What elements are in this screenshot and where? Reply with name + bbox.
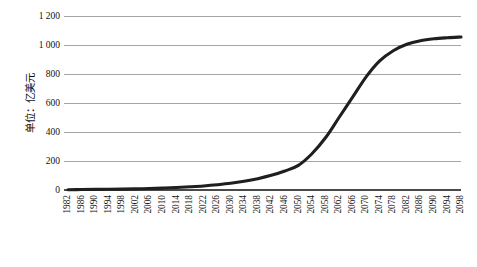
x-axis-tick-label: 2062 [333,195,343,214]
y-axis-tick-label: 1 000 [39,40,61,50]
x-axis-tick-label: 1990 [89,195,99,214]
x-axis-tick-label: 2074 [374,195,384,214]
x-axis-tick-label: 2078 [387,195,397,214]
x-axis-tick-label: 2010 [157,195,167,214]
line-chart: 02004006008001 0001 200 1982198619901994… [0,0,477,267]
x-axis-tick-label: 1986 [76,195,86,214]
y-axis-tick-label: 0 [55,185,60,195]
x-axis-tick-label: 2022 [198,195,208,214]
x-axis-tick-label: 2030 [225,195,235,214]
x-axis-tick-label: 2070 [360,195,370,214]
x-axis-tick-label: 2034 [238,195,248,214]
x-axis-tick-label: 2026 [211,195,221,214]
series-line [68,37,461,190]
x-axis-tick-label: 2098 [455,195,465,214]
x-axis-tick-label: 2086 [414,195,424,214]
x-axis-tick-label: 2066 [347,195,357,214]
x-axis-tick-label: 2082 [401,195,411,214]
y-axis-tick-labels: 02004006008001 0001 200 [39,11,61,195]
y-axis-tick-label: 600 [46,98,61,108]
x-axis-tick-label: 2050 [293,195,303,214]
y-axis-tick-label: 400 [46,127,61,137]
chart-container: 02004006008001 0001 200 1982198619901994… [0,0,477,267]
y-axis-title: 单位：亿美元 [24,72,36,133]
x-axis-tick-label: 2094 [442,195,452,214]
y-axis-tick-label: 200 [46,156,61,166]
x-axis-tick-label: 2058 [320,195,330,214]
x-axis-tick-label: 1982 [62,195,72,214]
data-series [68,37,461,190]
x-axis-tick-label: 1994 [103,195,113,214]
x-axis-tick-label: 2018 [184,195,194,214]
y-axis-tick-label: 800 [46,69,61,79]
y-axis-title-text: 单位：亿美元 [24,72,36,133]
x-axis-tick-label: 2042 [265,195,275,214]
x-axis-tick-label: 2002 [130,195,140,214]
x-axis-tick-labels: 1982198619901994199820022006201020142018… [62,195,465,214]
x-axis-tick-label: 2054 [306,195,316,214]
x-axis-tick-label: 2090 [428,195,438,214]
x-axis-tick-label: 1998 [116,195,126,214]
gridlines [64,16,461,190]
y-axis-tick-label: 1 200 [39,11,61,21]
x-axis-tick-label: 2046 [279,195,289,214]
x-axis-tick-label: 2038 [252,195,262,214]
x-axis-tick-label: 2006 [143,195,153,214]
x-axis-tick-label: 2014 [171,195,181,214]
